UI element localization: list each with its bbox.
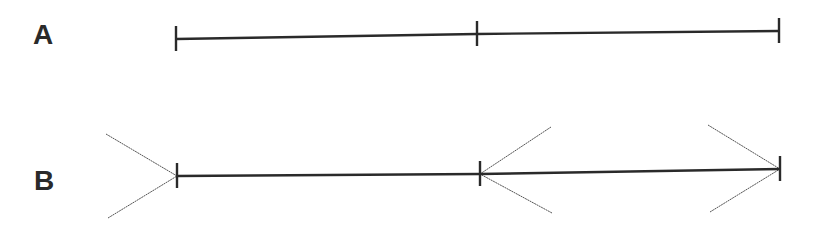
segment-line — [477, 31, 779, 34]
line-b — [106, 125, 780, 218]
segment-line — [177, 174, 480, 176]
segment-line — [176, 34, 477, 39]
diagram-svg — [0, 0, 820, 227]
fin-line — [108, 176, 177, 218]
fin-line — [106, 134, 177, 176]
muller-lyer-figure: A B — [0, 0, 820, 227]
fin-line — [480, 174, 552, 213]
fin-line — [710, 169, 780, 212]
fin-line — [480, 127, 551, 174]
segment-line — [480, 169, 780, 174]
line-a — [176, 18, 779, 51]
fin-line — [708, 125, 780, 169]
